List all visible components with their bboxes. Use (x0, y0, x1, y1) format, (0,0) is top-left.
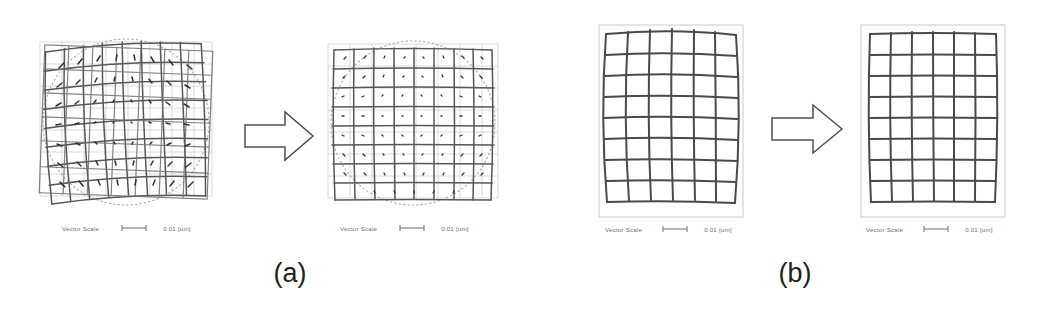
vector-scale-label: Vector Scale (62, 225, 99, 232)
distorted-mesh (39, 36, 213, 209)
distortion-grid-after (858, 22, 1008, 220)
scale-row-b-after: Vector Scale 0.01 [um] (866, 225, 1016, 233)
distorted-grid-lines (603, 29, 739, 203)
vector-scale-value: 0.01 [um] (441, 225, 469, 232)
wafer-vector-map-distorted (26, 28, 226, 218)
right-arrow-icon (770, 102, 844, 156)
corrected-mesh (332, 48, 494, 200)
bar-marker-icon (121, 224, 147, 232)
vector-scale-label: Vector Scale (866, 226, 903, 233)
bar-marker-icon (399, 224, 425, 232)
transform-arrow-b (770, 102, 844, 160)
transform-arrow-a (243, 108, 315, 168)
panel-b-before (596, 22, 746, 220)
scale-row-a-after: Vector Scale 0.01 [um] (340, 224, 500, 232)
bar-marker-icon (923, 225, 949, 233)
vector-scale-label: Vector Scale (605, 226, 642, 233)
distortion-grid-before (596, 22, 746, 220)
subfigure-caption-b: (b) (735, 258, 855, 289)
subfigure-caption-a: (a) (230, 258, 350, 289)
vector-scale-value: 0.01 [um] (163, 225, 191, 232)
vector-scale-label: Vector Scale (340, 225, 377, 232)
scale-row-b-before: Vector Scale 0.01 [um] (605, 225, 755, 233)
scale-row-a-before: Vector Scale 0.01 [um] (62, 224, 222, 232)
wafer-outline-circle (331, 41, 495, 205)
corrected-grid-lines (869, 32, 998, 202)
wafer-vector-map-corrected (318, 28, 508, 218)
panel-b-after (858, 22, 1008, 220)
figure-root: Vector Scale 0.01 [um] (0, 0, 1040, 318)
vector-scale-value: 0.01 [um] (965, 226, 993, 233)
residual-vectors (342, 56, 483, 193)
panel-a-after (318, 28, 508, 218)
vector-scale-value: 0.01 [um] (704, 226, 732, 233)
right-arrow-icon (243, 108, 315, 164)
bar-marker-icon (662, 225, 688, 233)
panel-a-before (26, 28, 226, 218)
